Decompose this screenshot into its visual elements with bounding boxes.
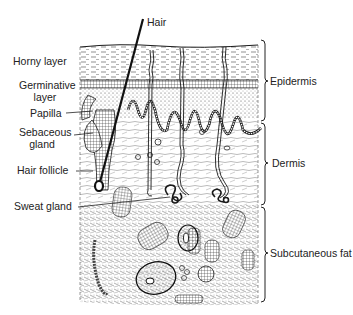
label-papilla: Papilla xyxy=(30,107,62,119)
label-sweat-gland: Sweat gland xyxy=(14,200,72,212)
label-hair: Hair xyxy=(147,16,166,28)
label-germinative-line1: Germinative xyxy=(19,79,71,91)
label-germinative-layer: Germinative layer xyxy=(19,79,71,103)
dermis-bracket xyxy=(261,123,268,205)
germinative-layer-region xyxy=(80,80,258,88)
label-dermis: Dermis xyxy=(272,157,305,169)
label-horny-layer: Horny layer xyxy=(13,55,67,67)
label-hair-follicle: Hair follicle xyxy=(17,164,68,176)
label-sebaceous-gland: Sebaceous gland xyxy=(19,126,65,150)
subcutaneous-fat-bracket xyxy=(261,207,268,302)
label-sebaceous-line1: Sebaceous xyxy=(19,126,65,138)
epidermis-bracket xyxy=(261,40,268,121)
hair-bulb xyxy=(95,181,103,191)
horny-layer-region xyxy=(80,45,258,80)
label-germinative-line2: layer xyxy=(19,91,71,103)
label-epidermis: Epidermis xyxy=(270,75,317,87)
label-subcutaneous-fat: Subcutaneous fat xyxy=(270,247,352,259)
label-sebaceous-line2: gland xyxy=(19,138,65,150)
